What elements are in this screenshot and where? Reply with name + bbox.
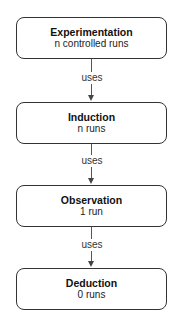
arrow-down-icon: [88, 261, 94, 267]
node-induction: Induction n runs: [16, 102, 167, 144]
node-deduction: Deduction 0 runs: [16, 268, 167, 310]
node-title: Induction: [68, 111, 115, 123]
edge-label: uses: [0, 239, 184, 251]
edge-label-text: uses: [80, 72, 103, 84]
arrow-down-icon: [88, 178, 94, 184]
node-observation: Observation 1 run: [16, 185, 167, 227]
node-title: Observation: [61, 194, 122, 206]
arrow-down-icon: [88, 95, 94, 101]
node-subtitle: n controlled runs: [55, 38, 129, 50]
node-experimentation: Experimentation n controlled runs: [16, 17, 167, 59]
node-title: Experimentation: [50, 26, 132, 38]
node-subtitle: 1 run: [80, 206, 103, 218]
edge-label: uses: [0, 155, 184, 167]
edge-label: uses: [0, 72, 184, 84]
edge-label-text: uses: [80, 155, 103, 167]
node-subtitle: n runs: [78, 123, 106, 135]
node-subtitle: 0 runs: [78, 289, 106, 301]
node-title: Deduction: [66, 277, 117, 289]
edge-label-text: uses: [80, 239, 103, 251]
